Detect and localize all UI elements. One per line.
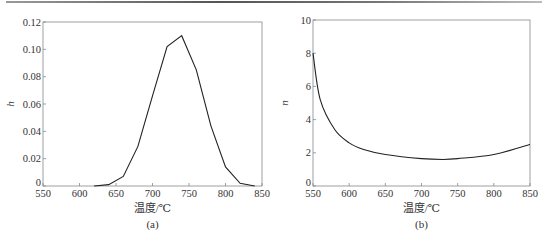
chart-a-svg: 55060065070075080085000.020.040.060.080.…: [0, 0, 274, 230]
x-tick-label: 700: [414, 188, 430, 199]
plot-frame: [43, 22, 262, 186]
y-tick-label: 0.06: [23, 99, 41, 110]
series-line-h: [94, 36, 255, 186]
panel-label: (b): [415, 218, 428, 230]
x-tick-label: 550: [305, 188, 321, 199]
x-tick-label: 850: [254, 188, 270, 199]
panel-label: (a): [146, 218, 159, 230]
x-tick-label: 750: [181, 188, 197, 199]
x-tick-label: 550: [35, 188, 51, 199]
y-tick-label: 0.08: [23, 71, 41, 82]
x-tick-label: 650: [377, 188, 393, 199]
plot-frame: [313, 20, 530, 186]
y-axis-label: n: [278, 100, 290, 106]
y-tick-label: 4: [306, 114, 312, 125]
y-tick-label: 0.10: [23, 44, 41, 55]
y-tick-label: 0: [36, 177, 41, 188]
x-tick-label: 650: [108, 188, 124, 199]
x-tick-label: 700: [145, 188, 161, 199]
chart-b-svg: 5506006507007508008500246810n温度/℃(b): [274, 0, 548, 230]
x-tick-label: 800: [486, 188, 502, 199]
y-tick-label: 6: [306, 81, 311, 92]
chart-b: 5506006507007508008500246810n温度/℃(b): [274, 0, 548, 230]
y-tick-label: 0.02: [23, 153, 41, 164]
y-tick-label: 2: [306, 147, 311, 158]
y-tick-label: 0.04: [23, 126, 42, 137]
chart-a: 55060065070075080085000.020.040.060.080.…: [0, 0, 274, 230]
y-axis-label: h: [4, 101, 16, 107]
x-axis-label: 温度/℃: [134, 201, 171, 214]
x-tick-label: 850: [522, 188, 538, 199]
y-tick-label: 0: [306, 177, 311, 188]
x-tick-label: 800: [218, 188, 234, 199]
series-line-n: [313, 53, 530, 159]
x-axis-label: 温度/℃: [403, 201, 440, 214]
x-tick-label: 600: [72, 188, 88, 199]
y-tick-label: 0.12: [23, 17, 41, 28]
x-tick-label: 750: [450, 188, 466, 199]
x-tick-label: 600: [341, 188, 357, 199]
y-tick-label: 8: [306, 48, 311, 59]
y-tick-label: 10: [301, 15, 312, 26]
